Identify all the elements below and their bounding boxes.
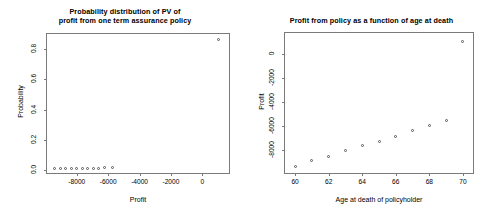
y-tick-label: -8000 xyxy=(268,130,275,170)
right-plot-xlabel: Age at death of policyholder xyxy=(284,196,474,203)
data-point xyxy=(411,129,414,132)
data-point xyxy=(59,167,62,170)
data-point xyxy=(361,144,364,147)
y-tick-mark xyxy=(44,49,47,50)
y-tick-mark xyxy=(282,150,285,151)
data-point xyxy=(81,167,84,170)
y-tick-mark xyxy=(44,140,47,141)
y-tick-mark xyxy=(282,126,285,127)
data-point xyxy=(344,149,347,152)
left-plot-title-line2: profit from one term assurance policy xyxy=(20,16,230,25)
x-tick-mark xyxy=(77,173,78,176)
data-point xyxy=(64,167,67,170)
data-point xyxy=(97,167,100,170)
y-tick-mark xyxy=(282,54,285,55)
y-tick-mark xyxy=(44,170,47,171)
data-point xyxy=(327,155,330,158)
data-point xyxy=(394,135,397,138)
data-point xyxy=(310,159,313,162)
right-plot-data-area xyxy=(285,33,473,173)
right-plot-panel: Profit from policy as a function of age … xyxy=(246,0,493,218)
left-plot-xlabel: Profit xyxy=(46,196,230,203)
right-plot-ylabel: Profit xyxy=(258,62,265,142)
left-plot-ylabel: Probability xyxy=(17,62,24,142)
y-tick-mark xyxy=(44,110,47,111)
y-tick-mark xyxy=(44,79,47,80)
figure-canvas: Probability distribution of PV of profit… xyxy=(0,0,493,218)
x-tick-mark xyxy=(202,173,203,176)
x-tick-mark xyxy=(463,173,464,176)
right-plot-title: Profit from policy as a function of age … xyxy=(264,16,479,25)
x-tick-mark xyxy=(362,173,363,176)
left-plot-title-line1: Probability distribution of PV of xyxy=(20,7,230,16)
data-point xyxy=(103,166,106,169)
data-point xyxy=(461,40,464,43)
data-point xyxy=(92,167,95,170)
data-point xyxy=(111,166,114,169)
x-tick-mark xyxy=(295,173,296,176)
data-point xyxy=(378,140,381,143)
x-tick-mark xyxy=(171,173,172,176)
left-plot-panel: Probability distribution of PV of profit… xyxy=(0,0,246,218)
x-tick-mark xyxy=(140,173,141,176)
data-point xyxy=(445,119,448,122)
x-tick-label: 70 xyxy=(443,178,483,185)
data-point xyxy=(217,38,220,41)
data-point xyxy=(428,124,431,127)
right-plot-frame xyxy=(284,32,474,174)
y-tick-mark xyxy=(282,102,285,103)
x-tick-mark xyxy=(429,173,430,176)
data-point xyxy=(75,167,78,170)
left-plot-frame xyxy=(46,33,230,174)
left-plot-title: Probability distribution of PV of profit… xyxy=(20,7,230,25)
x-tick-mark xyxy=(396,173,397,176)
x-tick-mark xyxy=(329,173,330,176)
y-tick-mark xyxy=(282,78,285,79)
left-plot-data-area xyxy=(47,34,229,173)
x-tick-mark xyxy=(108,173,109,176)
data-point xyxy=(294,165,297,168)
y-tick-label: 0.8 xyxy=(30,29,37,69)
data-point xyxy=(86,167,89,170)
x-tick-label: 0 xyxy=(182,178,222,185)
data-point xyxy=(70,167,73,170)
data-point xyxy=(53,167,56,170)
